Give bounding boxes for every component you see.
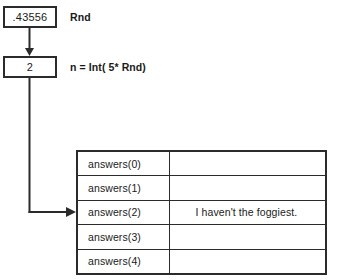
table-row: answers(0) — [77, 151, 326, 176]
table-row: answers(2) I haven't the foggiest. — [77, 200, 326, 225]
answers-index-label: answers(0) — [77, 151, 169, 176]
flow-diagram: .43556 Rnd 2 n = Int( 5* Rnd) answers(0)… — [0, 0, 337, 280]
answers-value-cell: I haven't the foggiest. — [169, 200, 326, 225]
answers-array-table: answers(0) answers(1) answers(2) I haven… — [76, 150, 327, 275]
answers-value-cell — [169, 249, 326, 274]
answers-value-cell — [169, 151, 326, 176]
table-row: answers(1) — [77, 176, 326, 201]
arrow-elbow-right-icon — [66, 207, 76, 217]
answers-index-label: answers(4) — [77, 249, 169, 274]
table-row: answers(4) — [77, 249, 326, 274]
rnd-step-label: Rnd — [70, 11, 91, 23]
arrow-down-icon — [25, 48, 34, 56]
answers-index-label: answers(2) — [77, 200, 169, 225]
table-row: answers(3) — [77, 225, 326, 250]
answers-index-label: answers(1) — [77, 176, 169, 201]
rnd-value-box: .43556 — [3, 6, 57, 28]
answers-index-label: answers(3) — [77, 225, 169, 250]
index-formula-label: n = Int( 5* Rnd) — [70, 61, 146, 73]
answers-value-cell — [169, 176, 326, 201]
answers-value-cell — [169, 225, 326, 250]
index-value-box: 2 — [3, 56, 57, 78]
